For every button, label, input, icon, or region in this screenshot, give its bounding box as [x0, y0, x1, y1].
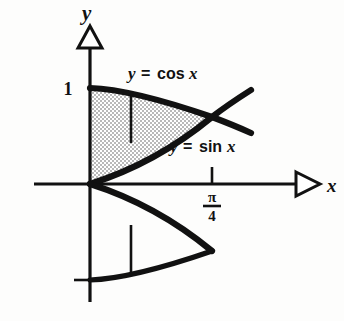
shaded-region-upper	[90, 88, 212, 184]
y-tick-label-1: 1	[64, 79, 73, 99]
sin-label-eq: =	[183, 138, 192, 155]
cos-label-fn: cos	[157, 65, 185, 82]
math-figure-svg: y x 1 π 4 y = cos x y = sin x	[0, 0, 344, 321]
cos-label-arg: x	[188, 64, 198, 83]
triangle-right-hollow-icon	[296, 172, 320, 196]
pi-numerator: π	[208, 189, 217, 205]
sin-label-lhs: y	[168, 137, 178, 156]
cos-label-lhs: y	[126, 64, 136, 83]
y-axis-label: y	[79, 1, 92, 25]
pi-denominator: 4	[208, 208, 216, 224]
triangle-up-hollow-icon	[78, 26, 102, 48]
sin-label-arg: x	[226, 137, 236, 156]
x-tick-label-pi-over-4: π 4	[203, 189, 221, 224]
sin-label-fn: sin	[199, 138, 222, 155]
neg-sin-curve	[90, 184, 212, 251]
figure-root: y x 1 π 4 y = cos x y = sin x	[0, 0, 344, 321]
cos-curve-label: y = cos x	[126, 64, 198, 83]
curves-lower-reflection	[74, 184, 212, 280]
cos-label-eq: =	[141, 65, 150, 82]
neg-cos-curve	[90, 251, 212, 280]
x-axis-label: x	[326, 175, 337, 196]
